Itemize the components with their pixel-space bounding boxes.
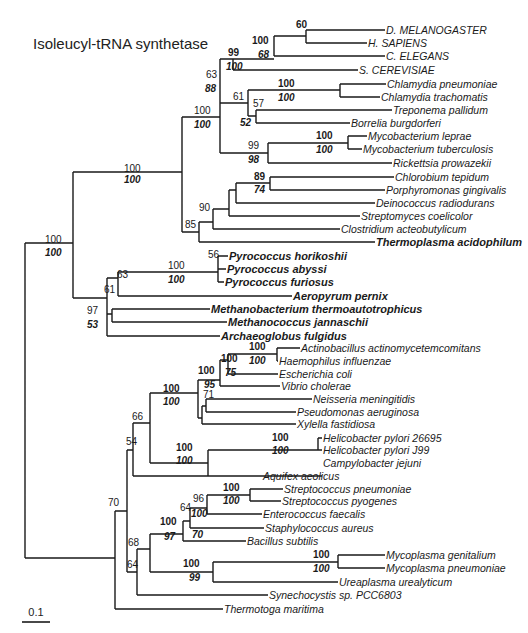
taxon-cace: Clostridium acteobutylicum [341, 223, 467, 235]
bootstrap-value: 60 [296, 19, 308, 30]
taxon-hsap: H. SAPIENS [368, 37, 427, 49]
bootstrap-value: 71 [203, 389, 215, 400]
bootstrap-value: 99 [228, 47, 240, 58]
taxon-paby: Pyrococcus abyssi [227, 263, 328, 275]
taxon-tpal: Treponema pallidum [393, 104, 488, 116]
bootstrap-value: 63 [117, 269, 129, 280]
bootstrap-value: 100 [223, 482, 240, 493]
taxon-pgin: Porphyromonas gingivalis [386, 184, 507, 196]
bootstrap-value: 100 [226, 61, 243, 72]
bootstrap-value: 100 [45, 234, 62, 245]
bootstrap-value: 100 [278, 78, 295, 89]
taxon-aaeo: Aquifex aeolicus [262, 470, 340, 482]
bootstrap-value: 54 [126, 436, 138, 447]
bootstrap-value: 100 [176, 442, 193, 453]
bootstrap-value: 64 [180, 502, 192, 513]
taxon-cjej: Campylobacter jejuni [323, 457, 422, 469]
bootstrap-value: 53 [87, 319, 99, 330]
taxon-aact: Actinobacillus actinomycetemcomitans [300, 342, 481, 354]
tree-title: Isoleucyl-tRNA synthetase [33, 35, 208, 52]
taxon-cele: C. ELEGANS [386, 50, 449, 62]
bootstrap-value: 63 [206, 69, 218, 80]
taxon-paer: Pseudomonas aeruginosa [297, 406, 419, 418]
bootstrap-value: 96 [193, 493, 205, 504]
bootstrap-value: 74 [254, 184, 266, 195]
bootstrap-value: 100 [313, 563, 330, 574]
taxon-hpj9: Helicobacter pylori J99 [323, 444, 429, 456]
scale-bar-label: 0.1 [28, 606, 43, 618]
taxon-bsub: Bacillus subtilis [247, 535, 319, 547]
taxon-pfur: Pyrococcus furiosus [225, 276, 334, 288]
taxon-spne: Streptococcus pneumoniae [284, 483, 411, 495]
bootstrap-value: 64 [127, 559, 139, 570]
bootstrap-value: 88 [205, 83, 217, 94]
bootstrap-value: 100 [252, 35, 269, 46]
taxon-spyo: Streptococcus pyogenes [282, 495, 398, 507]
bootstrap-value: 75 [225, 367, 237, 378]
taxon-cpne: Chlamydia pneumoniae [387, 78, 497, 90]
bootstrap-value: 90 [199, 202, 211, 213]
taxon-phor: Pyrococcus horikoshii [229, 250, 348, 262]
bootstrap-value: 100 [198, 365, 215, 376]
bootstrap-value: 100 [316, 130, 333, 141]
bootstrap-value: 68 [258, 49, 270, 60]
bootstrap-value: 97 [87, 305, 99, 316]
bootstrap-value: 68 [128, 537, 140, 548]
bootstrap-value: 98 [248, 154, 260, 165]
taxon-dmel: D. MELANOGASTER [386, 24, 487, 36]
taxon-mlep: Mycobacterium leprae [368, 130, 471, 142]
taxon-drad: Deinococcus radiodurans [376, 197, 495, 209]
bootstrap-value: 100 [316, 144, 333, 155]
taxon-aper: Aeropyrum pernix [292, 290, 389, 302]
taxon-scer: S. CEREVISIAE [359, 64, 436, 76]
scale-bar: 0.1 [22, 606, 50, 622]
bootstrap-value: 100 [124, 174, 141, 185]
taxon-mgen: Mycoplasma genitalium [386, 549, 496, 561]
bootstrap-value: 66 [132, 411, 144, 422]
bootstrap-value: 97 [164, 531, 176, 542]
bootstrap-value: 70 [192, 529, 204, 540]
bootstrap-value: 100 [163, 396, 180, 407]
bootstrap-value: 100 [45, 247, 62, 258]
taxon-mthe: Methanobacterium thermoautotrophicus [211, 303, 422, 315]
taxon-hinf: Haemophilus influenzae [279, 355, 391, 367]
bootstrap-value: 56 [208, 249, 220, 260]
bootstrap-value: 100 [272, 432, 289, 443]
bootstrap-value: 100 [124, 163, 141, 174]
taxon-aful: Archaeoglobus fulgidus [220, 330, 347, 342]
bootstrap-value: 99 [248, 140, 260, 151]
bootstrap-value: 57 [253, 98, 265, 109]
taxon-uure: Ureaplasma urealyticum [339, 576, 452, 588]
phylogenetic-tree: Isoleucyl-tRNA synthetase 60100689910063… [0, 0, 528, 633]
taxon-mtub: Mycobacterium tuberculosis [363, 143, 494, 155]
taxon-scoe: Streptomyces coelicolor [361, 210, 473, 222]
taxon-bbur: Borrelia burgdorferi [351, 117, 442, 129]
taxon-saur: Staphylococcus aureus [265, 522, 374, 534]
bootstrap-value: 100 [313, 549, 330, 560]
bootstrap-value: 100 [249, 341, 266, 352]
bootstrap-value: 100 [176, 455, 193, 466]
taxon-mjan: Methanococcus jannaschii [228, 316, 369, 328]
taxon-hp26: Helicobacter pylori 26695 [323, 432, 442, 444]
taxon-vcho: Vibrio cholerae [281, 380, 351, 392]
bootstrap-value: 100 [221, 353, 238, 364]
bootstrap-value: 100 [249, 355, 266, 366]
taxon-syne: Synechocystis sp. PCC6803 [269, 589, 402, 601]
bootstrap-value: 52 [240, 117, 252, 128]
taxon-rpro: Rickettsia prowazekii [393, 157, 492, 169]
taxon-ctra: Chlamydia trachomatis [381, 91, 489, 103]
taxon-tmar: Thermotoga maritima [224, 603, 324, 615]
taxon-labels: D. MELANOGASTERH. SAPIENSC. ELEGANSS. CE… [211, 24, 522, 615]
bootstrap-value: 100 [194, 119, 211, 130]
bootstrap-value: 89 [254, 171, 266, 182]
bootstrap-value: 100 [168, 260, 185, 271]
taxon-xfas: Xylella fastidiosa [296, 418, 375, 430]
bootstrap-value: 100 [278, 92, 295, 103]
taxon-nmen: Neisseria meningitidis [313, 393, 416, 405]
taxon-efae: Enterococcus faecalis [263, 508, 366, 520]
bootstrap-value: 100 [272, 445, 289, 456]
bootstrap-value: 100 [168, 274, 185, 285]
bootstrap-value: 85 [185, 219, 197, 230]
bootstrap-value: 70 [108, 497, 120, 508]
bootstrap-value: 100 [160, 516, 177, 527]
